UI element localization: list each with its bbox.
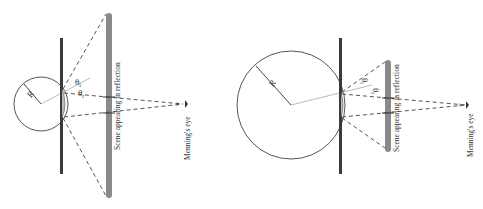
- mirror-cap-right: [341, 93, 343, 117]
- normal-line-right: [291, 85, 372, 105]
- eye-icon-right: [466, 101, 469, 109]
- scene-bar-right: [385, 60, 391, 152]
- rays-right: [342, 62, 466, 148]
- eye-mark-left: =: [173, 102, 181, 106]
- scene-bar-left: [106, 13, 112, 198]
- eye-label-left: Menning's eye: [183, 116, 192, 160]
- scene-label-right: Scene appearing in reflection: [392, 64, 401, 152]
- theta-i-left: θi: [75, 77, 81, 88]
- theta-r-right: θr: [370, 88, 381, 94]
- panel-right: R θi θr Scene appearing in reflection = …: [237, 38, 475, 174]
- radius-label-right: R: [266, 78, 278, 89]
- theta-i-right: θi: [359, 78, 370, 84]
- eye-icon-left: [185, 100, 188, 108]
- theta-r-left: θr: [78, 88, 84, 99]
- diagram-canvas: R θi θr Scene appearing in reflection = …: [0, 0, 483, 209]
- panel-left: R θi θr Scene appearing in reflection = …: [14, 13, 192, 198]
- rays-left: [63, 14, 183, 196]
- scene-label-left: Scene appearing in reflection: [113, 62, 122, 150]
- normal-line-left: [41, 78, 90, 104]
- eye-label-right: Menning's eye: [466, 113, 475, 157]
- eye-mark-right: =: [456, 103, 464, 107]
